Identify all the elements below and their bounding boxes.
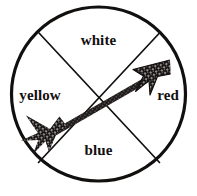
sector-label-white: white [0,33,197,48]
sector-label-yellow: yellow [2,88,78,103]
sector-label-blue: blue [0,143,197,158]
arrow-graphic [21,60,171,154]
color-wheel-arrow-diagram: white yellow red blue [0,0,197,196]
sector-label-red: red [142,88,194,103]
